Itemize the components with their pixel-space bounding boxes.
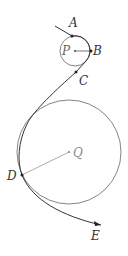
center-p <box>74 50 76 52</box>
label-d: D <box>6 169 17 183</box>
radius-qd <box>22 152 69 175</box>
label-q: Q <box>73 146 83 160</box>
label-e: E <box>90 229 100 243</box>
point-d <box>21 174 24 177</box>
label-c: C <box>79 74 88 88</box>
center-q <box>68 151 70 153</box>
diagram-canvas: A B C D E P Q <box>0 0 128 256</box>
label-p: P <box>61 44 71 58</box>
label-b: B <box>92 44 102 58</box>
trajectory-path <box>19 26 101 225</box>
label-a: A <box>68 16 78 30</box>
point-c <box>75 71 78 74</box>
point-a <box>71 35 74 38</box>
